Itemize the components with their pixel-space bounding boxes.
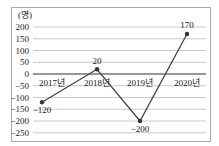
y-tick-label: 100 — [16, 46, 30, 56]
line-chart: (명)200150100500−50−100−150−200−2502017년2… — [0, 0, 219, 146]
x-category-label: 2019년 — [127, 78, 153, 88]
y-tick-label: 150 — [16, 34, 30, 44]
y-tick-label: 50 — [20, 57, 30, 67]
data-point — [95, 67, 99, 71]
y-tick-label: −50 — [15, 81, 30, 91]
data-label: −120 — [33, 105, 52, 115]
data-label: 170 — [180, 20, 194, 30]
y-tick-label: 200 — [16, 22, 30, 32]
data-point — [40, 100, 44, 104]
data-point — [185, 32, 189, 36]
y-tick-label: 0 — [25, 69, 30, 79]
data-point — [138, 119, 142, 123]
y-tick-label: −200 — [10, 116, 29, 126]
y-tick-label: −250 — [10, 128, 29, 138]
data-label: 20 — [93, 56, 103, 66]
y-axis-unit-label: (명) — [18, 10, 32, 20]
x-category-label: 2017년 — [39, 78, 65, 88]
x-category-label: 2020년 — [174, 78, 200, 88]
y-tick-label: −100 — [10, 93, 29, 103]
data-label: −200 — [131, 124, 150, 134]
y-tick-label: −150 — [10, 104, 29, 114]
